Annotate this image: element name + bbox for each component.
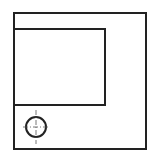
inner-recess	[14, 29, 105, 105]
outer-boundary	[14, 13, 146, 149]
technical-drawing	[0, 0, 155, 163]
